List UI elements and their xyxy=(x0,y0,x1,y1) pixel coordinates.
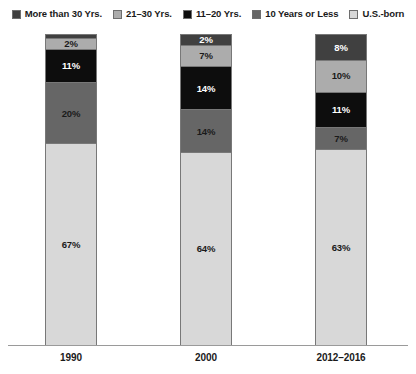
bar-segment-1990-11-20-yrs[interactable]: 11% xyxy=(46,49,96,83)
legend-swatch-icon-more-than-30-yrs xyxy=(12,10,21,19)
bar-segment-2012-2016-us-born[interactable]: 63% xyxy=(316,149,366,345)
legend-label-10-years-or-less: 10 Years or Less xyxy=(265,9,338,19)
x-axis-labels: 1990 2000 2012–2016 xyxy=(0,346,416,374)
bar-segment-label-2012-2016-21-30-yrs: 10% xyxy=(332,71,351,81)
legend-item-more-than-30-yrs[interactable]: More than 30 Yrs. xyxy=(12,9,102,19)
bar-segment-1990-us-born[interactable]: 67% xyxy=(46,143,96,345)
legend-label-more-than-30-yrs: More than 30 Yrs. xyxy=(25,9,102,19)
bar-segment-1990-21-30-yrs[interactable]: 2% xyxy=(46,38,96,49)
plot-area: 2% 11% 20% 67% 2% 7% 14% 14% xyxy=(0,28,416,346)
legend-swatch-icon-11-20-yrs xyxy=(183,10,192,19)
legend-item-21-30-yrs[interactable]: 21–30 Yrs. xyxy=(113,9,172,19)
bar-segment-label-2012-2016-11-20-yrs: 11% xyxy=(332,105,350,115)
bar-segment-2000-us-born[interactable]: 64% xyxy=(181,152,231,345)
legend-item-10-years-or-less[interactable]: 10 Years or Less xyxy=(252,9,338,19)
bar-segment-label-2012-2016-10-years-or-less: 7% xyxy=(334,134,348,144)
legend-label-11-20-yrs: 11–20 Yrs. xyxy=(196,9,241,19)
bar-segment-2000-more-than-30-yrs[interactable]: 2% xyxy=(181,35,231,45)
bar-segment-label-2000-us-born: 64% xyxy=(197,244,216,254)
bar-segment-2000-11-20-yrs[interactable]: 14% xyxy=(181,66,231,109)
legend-label-21-30-yrs: 21–30 Yrs. xyxy=(126,9,172,19)
legend-swatch-icon-us-born xyxy=(349,10,358,19)
bar-1990[interactable]: 2% 11% 20% 67% xyxy=(45,34,97,345)
x-axis-label-2000: 2000 xyxy=(146,352,266,363)
bar-segment-2012-2016-21-30-yrs[interactable]: 10% xyxy=(316,60,366,92)
legend-item-11-20-yrs[interactable]: 11–20 Yrs. xyxy=(183,9,241,19)
stacked-bar-chart: More than 30 Yrs. 21–30 Yrs. 11–20 Yrs. … xyxy=(0,0,416,374)
legend-swatch-icon-10-years-or-less xyxy=(252,10,261,19)
x-axis-label-2012-2016: 2012–2016 xyxy=(281,352,401,363)
bar-2000[interactable]: 2% 7% 14% 14% 64% xyxy=(180,34,232,345)
bar-segment-label-2000-11-20-yrs: 14% xyxy=(197,84,216,94)
bar-segment-label-1990-10-years-or-less: 20% xyxy=(62,109,81,119)
bar-segment-2012-2016-11-20-yrs[interactable]: 11% xyxy=(316,92,366,127)
legend-item-us-born[interactable]: U.S.-born xyxy=(349,9,404,19)
bar-segment-2012-2016-more-than-30-yrs[interactable]: 8% xyxy=(316,35,366,60)
bar-segment-label-2000-10-years-or-less: 14% xyxy=(197,127,216,137)
bar-segment-1990-10-years-or-less[interactable]: 20% xyxy=(46,82,96,143)
bar-segment-label-2012-2016-more-than-30-yrs: 8% xyxy=(334,43,348,53)
bar-segment-label-2012-2016-us-born: 63% xyxy=(332,243,351,253)
x-axis-label-1990: 1990 xyxy=(11,352,131,363)
chart-legend: More than 30 Yrs. 21–30 Yrs. 11–20 Yrs. … xyxy=(0,0,416,28)
bar-segment-2012-2016-10-years-or-less[interactable]: 7% xyxy=(316,127,366,150)
bar-2012-2016[interactable]: 8% 10% 11% 7% 63% xyxy=(315,34,367,345)
bar-segment-label-1990-us-born: 67% xyxy=(62,240,81,250)
bar-segment-label-1990-21-30-yrs: 2% xyxy=(64,39,78,49)
bar-segment-2000-21-30-yrs[interactable]: 7% xyxy=(181,45,231,67)
bar-segment-label-1990-11-20-yrs: 11% xyxy=(62,61,80,71)
legend-label-us-born: U.S.-born xyxy=(362,9,404,19)
bar-segment-2000-10-years-or-less[interactable]: 14% xyxy=(181,109,231,152)
legend-swatch-icon-21-30-yrs xyxy=(113,10,122,19)
bar-segment-label-2000-more-than-30-yrs: 2% xyxy=(199,35,213,45)
bar-segment-label-2000-21-30-yrs: 7% xyxy=(199,51,213,61)
